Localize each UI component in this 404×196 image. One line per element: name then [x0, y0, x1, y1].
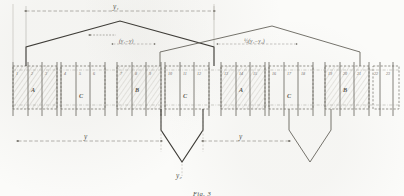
formula-left: (y₁−y) [119, 38, 134, 45]
figure-caption: Fig. 3 [0, 182, 404, 196]
figure-container: 1 2 3 4 5 6 7 8 9 10 11 12 13 14 15 16 1… [0, 0, 404, 196]
slot-number: 6 [93, 71, 96, 76]
phase-label: C [79, 92, 84, 99]
slot-number: 10 [168, 71, 172, 76]
dimension-label-top: y₁ [112, 3, 119, 11]
slot-number: 15 [253, 71, 257, 76]
phase-label: B [134, 86, 139, 93]
slot-band: 1 2 3 4 5 6 7 8 9 10 11 12 13 14 15 16 1… [13, 62, 399, 116]
phase-label: A [30, 86, 35, 93]
slot-number: 18 [301, 71, 305, 76]
phase-label: C [183, 92, 188, 99]
slot-number: 19 [328, 71, 332, 76]
slot-number: 8 [135, 71, 137, 76]
dimension-label-bottom-left: y [83, 133, 88, 141]
slot-number: 3 [45, 71, 47, 76]
slot-number: 14 [239, 71, 243, 76]
phase-label: B [342, 86, 347, 93]
slot-number: 13 [224, 71, 228, 76]
slot-number: 16 [272, 71, 277, 76]
slot-number: 2 [31, 71, 33, 76]
slot-number: 21 [357, 71, 361, 76]
peak-2 [160, 26, 360, 66]
vee-2 [289, 109, 331, 162]
phase-labels: A C B C A C B [30, 86, 347, 99]
figure-caption-text: Fig. 3 [193, 190, 211, 196]
slot-number: 12 [197, 71, 201, 76]
slot-number: 1 [16, 71, 18, 76]
dimension-label-bottom-right: y [238, 133, 243, 141]
formula-right: ½(y₁−y₂) [244, 38, 265, 45]
slot-number: 5 [79, 71, 81, 76]
group-outline-2 [61, 66, 105, 109]
frame-witness-lines [13, 4, 214, 62]
hatched-groups [13, 66, 369, 109]
winding-diagram-svg: 1 2 3 4 5 6 7 8 9 10 11 12 13 14 15 16 1… [0, 0, 404, 196]
slot-number: 20 [343, 71, 347, 76]
slot-number: 22 [374, 71, 378, 76]
slot-number: 9 [149, 71, 151, 76]
slot-number: 4 [64, 71, 66, 76]
dimension-label-y2: y₂ [175, 172, 182, 180]
phase-label: C [287, 92, 292, 99]
slot-number: 23 [386, 71, 390, 76]
upper-overhangs [26, 21, 360, 66]
vee-1 [161, 109, 203, 162]
slot-number: 11 [183, 71, 187, 76]
slot-number: 17 [287, 71, 292, 76]
phase-label: A [238, 86, 243, 93]
lower-overhangs [161, 109, 331, 162]
